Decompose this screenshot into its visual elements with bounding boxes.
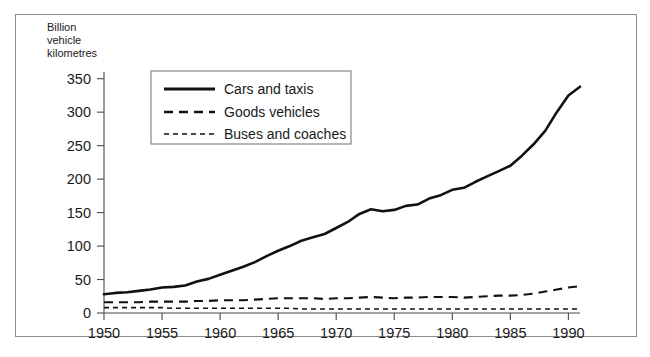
chart-legend: Cars and taxis Goods vehicles Buses and …: [151, 71, 351, 144]
x-tick-label: 1990: [552, 325, 584, 341]
series-line-buses-and-coaches: [104, 308, 580, 309]
legend-label-cars-and-taxis: Cars and taxis: [224, 81, 313, 97]
x-tick-label: 1975: [378, 325, 410, 341]
y-tick-label: 200: [67, 171, 91, 187]
legend-label-goods-vehicles: Goods vehicles: [224, 104, 320, 120]
y-axis-title: Billion vehicle kilometres: [47, 21, 98, 59]
x-axis-ticks: 195019551960196519701975198019851990: [88, 313, 585, 341]
y-axis-ticks: 050100150200250300350: [67, 71, 104, 321]
y-tick-label: 100: [67, 238, 91, 254]
chart-figure: Billion vehicle kilometres 0501001502002…: [0, 0, 650, 357]
y-tick-label: 50: [75, 272, 91, 288]
x-tick-label: 1950: [88, 325, 120, 341]
x-tick-label: 1965: [262, 325, 294, 341]
x-tick-label: 1960: [204, 325, 236, 341]
y-tick-label: 150: [67, 205, 91, 221]
y-axis-title-line3: kilometres: [47, 47, 98, 59]
y-tick-label: 0: [83, 305, 91, 321]
y-axis-title-line2: vehicle: [47, 34, 81, 46]
x-tick-label: 1970: [320, 325, 352, 341]
y-tick-label: 300: [67, 104, 91, 120]
y-axis-title-line1: Billion: [47, 21, 76, 33]
line-chart-svg: Billion vehicle kilometres 0501001502002…: [0, 0, 650, 357]
series-line-goods-vehicles: [104, 286, 580, 302]
x-tick-label: 1955: [146, 325, 178, 341]
y-tick-label: 250: [67, 138, 91, 154]
legend-label-buses-and-coaches: Buses and coaches: [224, 126, 346, 142]
y-tick-label: 350: [67, 71, 91, 87]
x-tick-label: 1980: [436, 325, 468, 341]
x-tick-label: 1985: [494, 325, 526, 341]
